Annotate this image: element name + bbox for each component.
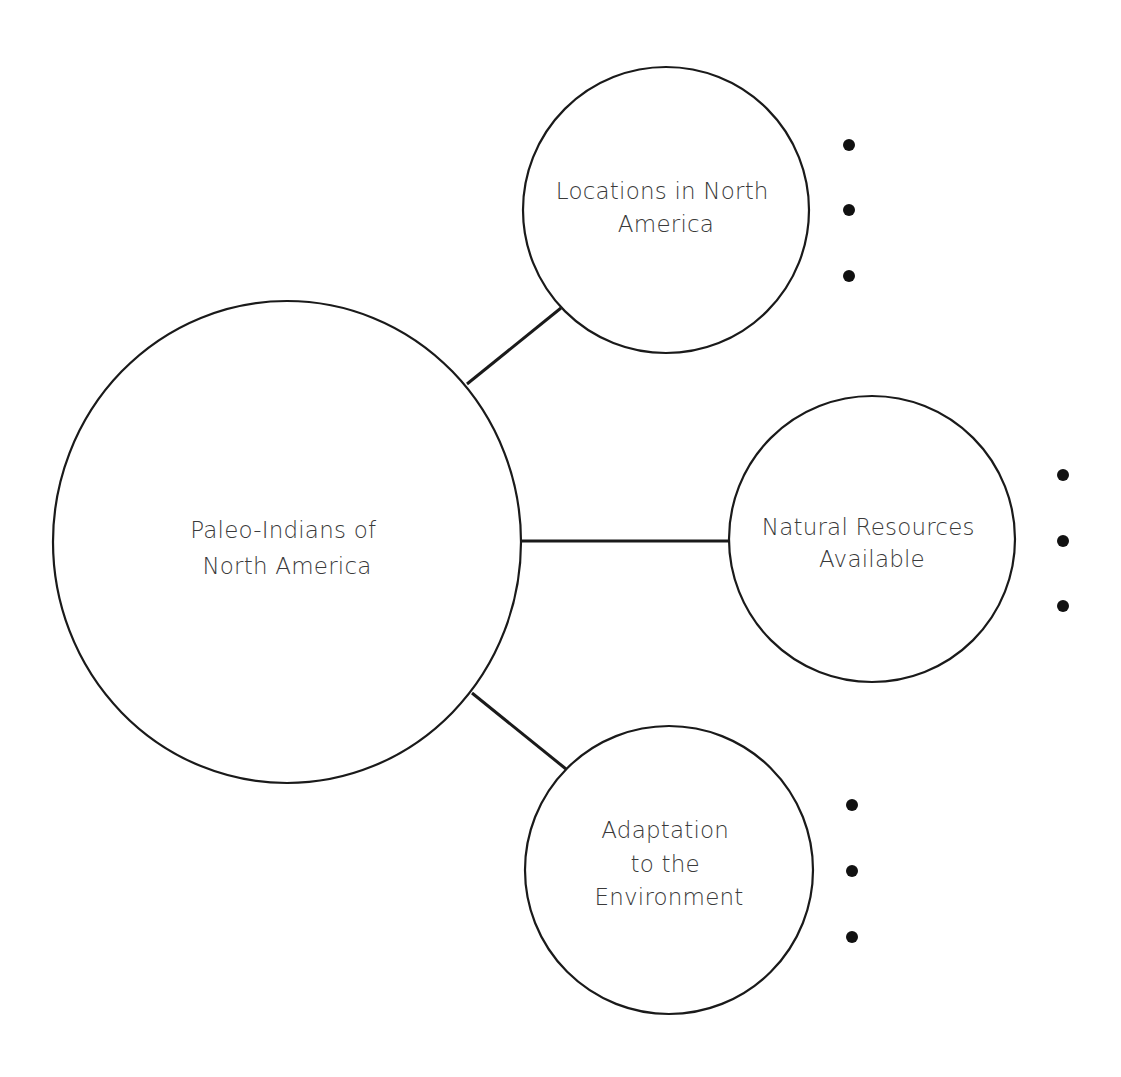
branch-node-adaptation: Adaptation to the Environment	[525, 726, 813, 1014]
adaptation-bullet-list	[846, 799, 858, 943]
resources-bullet-list	[1057, 469, 1069, 612]
branch-node-resources: Natural Resources Available	[729, 396, 1015, 682]
bullet-icon	[1057, 535, 1069, 547]
bullet-icon	[843, 139, 855, 151]
adaptation-node-label-line-1: Adaptation	[601, 817, 729, 843]
locations-node-label-line-1: Locations in North	[556, 178, 769, 204]
bullet-icon	[1057, 469, 1069, 481]
bullet-icon	[843, 204, 855, 216]
resources-node-label-line-2: Available	[819, 546, 925, 572]
bullet-icon	[1057, 600, 1069, 612]
bullet-icon	[843, 270, 855, 282]
central-node: Paleo-Indians of North America	[53, 301, 521, 783]
bullet-icon	[846, 799, 858, 811]
locations-node-circle	[523, 67, 809, 353]
locations-node-label-line-2: America	[618, 211, 714, 237]
adaptation-node-label-line-2: to the	[631, 851, 700, 877]
branch-node-locations: Locations in North America	[523, 67, 809, 353]
bullet-icon	[846, 931, 858, 943]
connector-central-to-locations	[467, 308, 561, 384]
concept-map-diagram: Paleo-Indians of North America Locations…	[0, 0, 1121, 1077]
resources-node-label-line-1: Natural Resources	[762, 514, 975, 540]
bullet-icon	[846, 865, 858, 877]
central-node-label-line-2: North America	[202, 553, 371, 579]
central-node-label-line-1: Paleo-Indians of	[190, 517, 377, 543]
adaptation-node-label-line-3: Environment	[594, 884, 743, 910]
connector-central-to-adaptation	[472, 693, 566, 769]
locations-bullet-list	[843, 139, 855, 282]
